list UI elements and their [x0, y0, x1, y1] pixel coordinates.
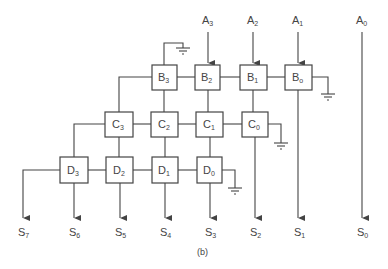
shifter-diagram: B3 B2 B1 Bo C3 C2 C1 C0 — [0, 0, 388, 269]
label-s4: S4 — [160, 226, 171, 239]
ground-icon — [228, 188, 242, 194]
block-b1: B1 — [240, 65, 267, 90]
b0-ground-wire — [312, 77, 328, 94]
block-b0: Bo — [285, 65, 312, 90]
block-c2: C2 — [151, 112, 178, 137]
block-b3: B3 — [152, 65, 177, 90]
output-labels: S7 S6 S5 S4 S3 S2 S1 S0 — [18, 226, 368, 239]
label-s1: S1 — [294, 226, 305, 239]
label-s3: S3 — [205, 226, 216, 239]
input-lines — [208, 32, 362, 218]
ground-icon — [176, 48, 190, 54]
label-s7: S7 — [18, 226, 29, 239]
figure-caption: (b) — [197, 247, 208, 257]
block-d2: D2 — [106, 157, 133, 183]
label-s5: S5 — [115, 226, 126, 239]
block-b2: B2 — [195, 65, 220, 90]
block-c0: C0 — [242, 112, 268, 137]
block-d3: D3 — [60, 157, 88, 183]
label-a1: A1 — [292, 14, 303, 27]
d0-ground-wire — [222, 170, 235, 188]
label-s2: S2 — [250, 226, 261, 239]
block-c3: C3 — [105, 112, 133, 137]
c0-ground-wire — [268, 124, 281, 143]
label-s0: S0 — [357, 226, 368, 239]
label-a3: A3 — [202, 14, 213, 27]
label-s6: S6 — [69, 226, 80, 239]
label-a0: A0 — [356, 14, 367, 27]
input-labels: A3 A2 A1 A0 — [202, 14, 367, 27]
b3-ground-wire — [164, 43, 183, 65]
ground-icon — [274, 143, 288, 149]
block-d0: D0 — [197, 157, 222, 183]
label-a2: A2 — [247, 14, 258, 27]
block-d1: D1 — [152, 157, 178, 183]
ground-icon — [321, 94, 335, 100]
block-c1: C1 — [196, 112, 223, 137]
